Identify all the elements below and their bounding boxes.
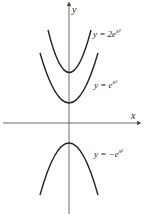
- label-neg-e-x2: y = −ex²: [93, 148, 123, 159]
- curve-2e-x2: [48, 30, 91, 73]
- label-2e-x2: y = 2ex²: [92, 28, 121, 39]
- label-e-x2: y = ex²: [93, 79, 117, 90]
- chart: y x y = 2ex² y = ex² y = −ex²: [0, 0, 144, 215]
- x-axis-label: x: [130, 110, 136, 121]
- y-axis-label: y: [71, 4, 77, 15]
